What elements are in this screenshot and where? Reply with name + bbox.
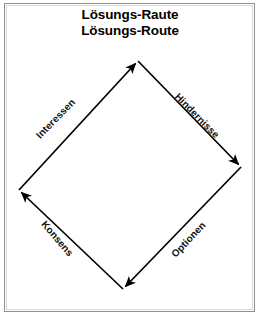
edge-konsens bbox=[22, 193, 124, 290]
diamond-diagram bbox=[0, 0, 260, 316]
solution-diamond-figure: Lösungs-Raute Lösungs-Route Interessen H… bbox=[0, 0, 260, 316]
edge-optionen bbox=[126, 167, 242, 287]
edge-interessen bbox=[19, 64, 136, 191]
